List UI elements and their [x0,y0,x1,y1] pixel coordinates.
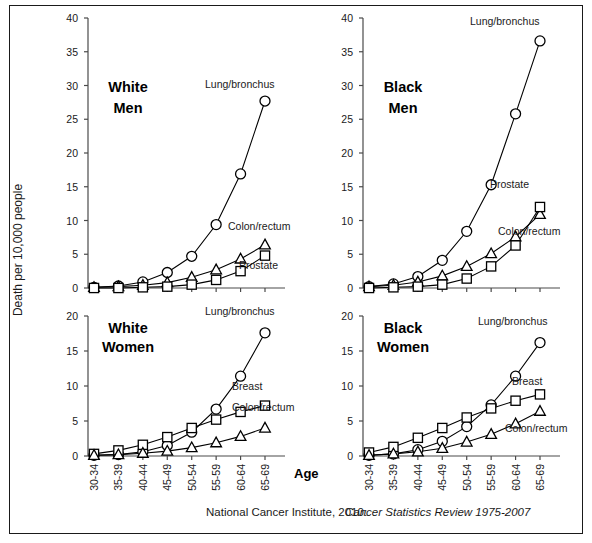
annotation-3: Lung/bronchus [470,15,539,27]
panel-0: 0510152025303540WhiteMen [66,12,285,294]
panel-title-line2-0: Men [114,100,143,116]
marker-circle-3-0-7 [535,338,545,348]
marker-triangle-0-1-5 [211,264,222,274]
annotation-7: Breast [232,380,262,392]
annotation-5: Colon/rectum [498,225,561,237]
x-tick-label-3-0: 30-34 [363,464,375,491]
y-tick-label-3-15: 15 [341,345,353,357]
marker-circle-1-0-6 [511,109,521,119]
annotation-0: Lung/bronchus [205,78,274,90]
marker-square-0-2-5 [212,275,221,284]
y-tick-label-0-30: 30 [66,80,78,92]
panel-title-line1-3: Black [384,320,424,336]
y-tick-label-0-15: 15 [66,181,78,193]
marker-triangle-0-1-7 [260,239,271,249]
x-tick-label-3-1: 35-39 [387,464,399,491]
y-tick-label-2-0: 0 [72,450,78,462]
panel-1: 0510152025303540BlackMen [341,12,560,294]
x-tick-label-3-6: 60-64 [510,464,522,491]
y-tick-label-0-40: 40 [66,12,78,24]
y-tick-label-0-5: 5 [72,248,78,260]
panel-title-line1-0: White [108,79,147,95]
y-tick-label-0-10: 10 [66,215,78,227]
marker-square-2-1-5 [212,415,221,424]
marker-circle-0-0-5 [211,220,221,230]
marker-square-0-2-4 [187,280,196,289]
x-tick-label-3-2: 40-44 [412,464,424,491]
y-tick-label-3-0: 0 [347,450,353,462]
panel-title-line1-1: Black [384,79,424,95]
figure-root: 0510152025303540WhiteMen0510152025303540… [0,0,592,543]
y-tick-label-3-10: 10 [341,380,353,392]
marker-square-1-2-3 [438,280,447,289]
y-tick-label-1-35: 35 [341,46,353,58]
panel-title-line2-1: Men [389,100,418,116]
y-tick-label-2-20: 20 [66,310,78,322]
marker-square-2-1-3 [163,433,172,442]
marker-triangle-3-2-5 [486,429,497,439]
annotation-6: Lung/bronchus [205,305,274,317]
marker-circle-0-0-6 [236,169,246,179]
x-tick-label-2-4: 50-54 [186,464,198,491]
marker-triangle-1-1-3 [437,270,448,280]
marker-triangle-1-1-4 [461,261,472,271]
marker-square-2-1-4 [187,423,196,432]
marker-square-1-2-4 [462,274,471,283]
x-tick-label-2-5: 55-59 [210,464,222,491]
marker-square-1-2-5 [487,262,496,271]
marker-square-1-2-7 [535,202,544,211]
y-tick-label-2-10: 10 [66,380,78,392]
y-tick-label-1-30: 30 [341,80,353,92]
y-tick-label-2-5: 5 [72,415,78,427]
x-axis-title: Age [294,466,319,481]
x-tick-label-2-7: 65-69 [259,464,271,491]
annotation-10: Breast [512,375,542,387]
annotation-1: Colon/rectum [228,220,291,232]
y-tick-label-1-0: 0 [347,282,353,294]
marker-triangle-1-1-5 [486,248,497,258]
marker-triangle-2-2-7 [260,422,271,432]
x-tick-label-2-6: 60-64 [235,464,247,491]
marker-circle-0-0-4 [187,251,197,261]
marker-square-3-1-5 [487,404,496,413]
annotation-4: Prostate [490,178,529,190]
y-tick-label-1-40: 40 [341,12,353,24]
x-tick-label-3-7: 65-69 [534,464,546,491]
marker-circle-1-0-7 [535,36,545,46]
marker-square-1-2-0 [364,283,373,292]
y-tick-label-1-15: 15 [341,181,353,193]
caption-plain: National Cancer Institute, 2010: [206,506,367,518]
marker-circle-0-0-7 [260,96,270,106]
caption-italic: Cancer Statistics Review 1975-2007 [345,506,531,518]
annotation-2: Prostate [239,259,278,271]
marker-square-0-2-3 [163,282,172,291]
marker-square-3-1-6 [511,396,520,405]
marker-circle-3-0-4 [462,422,472,432]
y-tick-label-1-5: 5 [347,248,353,260]
marker-square-0-2-1 [114,283,123,292]
marker-square-3-1-4 [462,413,471,422]
y-tick-label-0-0: 0 [72,282,78,294]
x-tick-label-2-0: 30-34 [88,464,100,491]
marker-square-3-1-3 [438,423,447,432]
marker-circle-2-0-5 [211,404,221,414]
x-tick-label-2-1: 35-39 [112,464,124,491]
annotation-8: Colon/rectum [232,401,295,413]
annotation-9: Lung/bronchus [478,315,547,327]
x-tick-label-3-5: 55-59 [485,464,497,491]
y-tick-label-3-5: 5 [347,415,353,427]
panel-title-line1-2: White [108,320,147,336]
y-tick-label-3-20: 20 [341,310,353,322]
figure-canvas: 0510152025303540WhiteMen0510152025303540… [0,0,592,543]
marker-square-0-2-2 [138,283,147,292]
y-axis-title: Death per 10,000 people [11,184,25,316]
x-tick-label-3-3: 45-49 [436,464,448,491]
marker-circle-2-0-7 [260,328,270,338]
y-tick-label-1-25: 25 [341,113,353,125]
y-tick-label-2-15: 15 [66,345,78,357]
marker-triangle-3-2-7 [535,406,546,416]
x-tick-label-3-4: 50-54 [461,464,473,491]
marker-circle-1-0-4 [462,226,472,236]
panel-title-line2-2: Women [102,339,154,355]
x-tick-label-2-3: 45-49 [161,464,173,491]
